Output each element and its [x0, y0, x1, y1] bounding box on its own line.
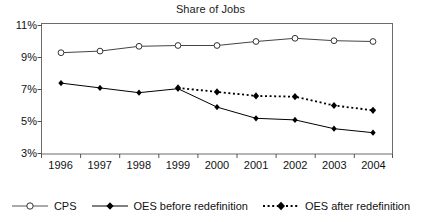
data-point-marker: [331, 38, 337, 44]
x-tick-label: 1998: [119, 159, 158, 175]
legend-item-oes-before: OES before redefinition: [91, 200, 248, 212]
legend-label: OES before redefinition: [134, 200, 248, 212]
legend-key-open-circle-icon: [11, 200, 49, 212]
chart-figure: Share of Jobs 11% 9% 7% 5% 3%: [0, 0, 421, 222]
x-tick-label: 1997: [80, 159, 119, 175]
data-point-marker: [136, 43, 142, 49]
x-tick-label: 1999: [158, 159, 197, 175]
y-axis-ticks: [38, 26, 42, 154]
x-tick-label: 2002: [276, 159, 315, 175]
x-tick-label: 1996: [41, 159, 80, 175]
x-tick-label: 2001: [237, 159, 276, 175]
chart-legend: CPS OES before redefinition OES after re…: [0, 196, 421, 216]
x-tick-label: 2003: [315, 159, 354, 175]
data-point-marker: [97, 48, 103, 54]
legend-label: CPS: [54, 200, 77, 212]
legend-label: OES after redefinition: [305, 200, 410, 212]
data-point-marker: [370, 39, 376, 45]
legend-key-filled-diamond-solid-icon: [91, 200, 129, 212]
x-axis-tick-labels: 1996 1997 1998 1999 2000 2001 2002 2003 …: [41, 159, 393, 175]
plot-area: [0, 0, 421, 222]
data-point-marker: [58, 50, 64, 56]
x-tick-label: 2004: [354, 159, 393, 175]
x-tick-label: 2000: [197, 159, 236, 175]
legend-key-filled-diamond-dotted-icon: [262, 200, 300, 212]
data-point-marker: [214, 43, 220, 49]
data-point-marker: [292, 35, 298, 41]
data-point-marker: [175, 43, 181, 49]
data-point-marker: [253, 39, 259, 45]
legend-item-oes-after: OES after redefinition: [262, 200, 410, 212]
legend-item-cps: CPS: [11, 200, 77, 212]
x-axis-ticks: [42, 154, 393, 158]
